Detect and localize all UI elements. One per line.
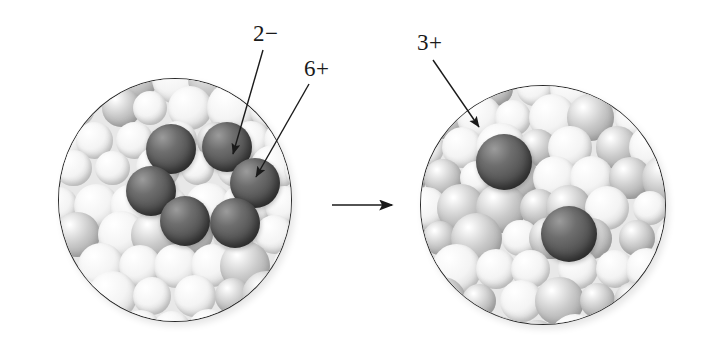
solvent-sphere [133,91,167,125]
diagram-canvas: 2− 6+ 3+ [0,0,711,359]
cation-sphere-bottom-l [160,196,210,246]
label-product-charge: 3+ [417,31,442,54]
solvent-sphere [580,283,615,318]
product-beaker [420,85,666,325]
solvent-sphere [462,284,497,319]
solvent-sphere [95,151,130,186]
solvent-sphere [665,127,666,169]
solvent-sphere-field [421,86,665,324]
solvent-sphere [58,150,92,186]
label-anion-charge: 2− [253,22,278,45]
cation-sphere-bottom-r [210,198,260,248]
hydrated-ion-lower [541,206,597,262]
label-cation-charge: 6+ [304,57,329,80]
reactant-beaker [58,78,292,322]
hydrated-ion-upper [476,134,532,190]
